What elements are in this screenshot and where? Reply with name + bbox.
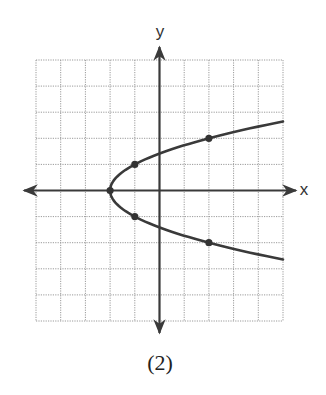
- coordinate-plane: x y (2): [0, 0, 326, 395]
- data-point: [205, 135, 212, 142]
- axes: [24, 47, 296, 333]
- data-point: [205, 239, 212, 246]
- data-point: [107, 187, 114, 194]
- figure-caption: (2): [147, 350, 173, 375]
- data-point: [131, 161, 138, 168]
- x-axis-label: x: [300, 180, 309, 199]
- y-axis-label: y: [156, 22, 165, 41]
- data-point: [131, 213, 138, 220]
- graph-figure: x y (2): [0, 0, 326, 395]
